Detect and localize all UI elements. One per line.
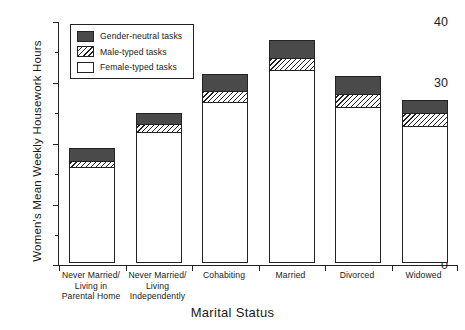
legend-item-female-typed: Female-typed tasks: [77, 60, 188, 74]
segment-female-typed: [69, 167, 115, 262]
x-label-never-married-parental-home: Never Married/ Living in Parental Home: [53, 270, 129, 302]
segment-female-typed: [136, 132, 182, 263]
x-label-married: Married: [253, 270, 329, 281]
x-label-widowed: Widowed: [386, 270, 462, 281]
x-label-line3: Parental Home: [53, 291, 129, 302]
x-label-line1: Never Married/: [120, 270, 196, 281]
segment-female-typed: [402, 126, 448, 263]
x-axis-title: Marital Status: [0, 305, 465, 320]
x-label-line1: Never Married/: [53, 270, 129, 281]
segment-gender-neutral: [202, 74, 248, 92]
x-label-line2: Living: [120, 281, 196, 292]
hatched-swatch-icon: [77, 46, 94, 57]
plot-area: 40 30 20 10 0: [58, 22, 457, 266]
legend-label-gender-neutral: Gender-neutral tasks: [100, 31, 182, 41]
x-axis-labels: Never Married/ Living in Parental Home N…: [58, 270, 457, 306]
bar-never-married-parental-home: [69, 148, 115, 265]
y-axis-title: Women's Mean Weekly Housework Hours: [31, 21, 43, 281]
segment-female-typed: [335, 107, 381, 263]
segment-gender-neutral: [269, 40, 315, 60]
segment-gender-neutral: [335, 76, 381, 95]
solid-dark-swatch-icon: [77, 31, 94, 42]
x-label-line1: Divorced: [319, 270, 395, 281]
segment-male-typed: [335, 94, 381, 109]
legend-label-female-typed: Female-typed tasks: [100, 62, 177, 72]
x-label-line3: Independently: [120, 291, 196, 302]
x-label-divorced: Divorced: [319, 270, 395, 281]
x-label-line1: Cohabiting: [186, 270, 262, 281]
x-label-cohabiting: Cohabiting: [186, 270, 262, 281]
bar-divorced: [335, 76, 381, 266]
housework-hours-stacked-bar-chart: Women's Mean Weekly Housework Hours 40 3…: [0, 0, 465, 330]
x-label-line1: Married: [253, 270, 329, 281]
legend: Gender-neutral tasks Male-typed tasks Fe…: [70, 24, 194, 79]
x-label-never-married-living-independently: Never Married/ Living Independently: [120, 270, 196, 302]
legend-item-gender-neutral: Gender-neutral tasks: [77, 29, 188, 43]
bar-married: [269, 40, 315, 265]
bar-widowed: [402, 100, 448, 265]
segment-female-typed: [269, 70, 315, 263]
x-label-line2: Living in: [53, 281, 129, 292]
legend-label-male-typed: Male-typed tasks: [100, 47, 167, 57]
x-label-line1: Widowed: [386, 270, 462, 281]
bar-never-married-living-independently: [136, 113, 182, 266]
legend-item-male-typed: Male-typed tasks: [77, 45, 188, 59]
segment-female-typed: [202, 102, 248, 262]
white-swatch-icon: [77, 62, 94, 73]
bar-cohabiting: [202, 74, 248, 265]
